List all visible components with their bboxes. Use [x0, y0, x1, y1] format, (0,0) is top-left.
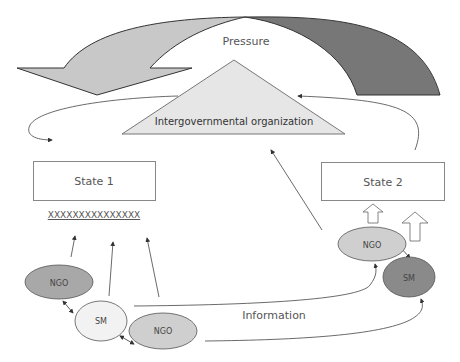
ngo-bottom-up-arrow: [147, 238, 159, 297]
ngo-sm-left-link: [63, 301, 73, 313]
sm-left-up-arrow: [109, 242, 113, 296]
information-arrow-lower: [205, 299, 422, 341]
state1-label: State 1: [74, 175, 114, 188]
pressure-label: Pressure: [223, 35, 270, 48]
ngo-bottom-label: NGO: [154, 327, 172, 336]
sm-right-label: SM: [403, 274, 415, 283]
information-arrow-upper: [134, 264, 376, 306]
ngo-right-label: NGO: [363, 241, 381, 250]
hollow-up-arrow-large: [402, 212, 428, 241]
igo-label: Intergovernmental organization: [155, 116, 314, 127]
information-label: Information: [242, 309, 306, 322]
hollow-up-arrow-small: [363, 204, 383, 223]
state2-label: State 2: [363, 176, 403, 189]
sm-left-label: SM: [95, 317, 107, 326]
xxx-label: XXXXXXXXXXXXXXX: [48, 210, 140, 220]
pressure-arrow-dark: [245, 17, 440, 95]
ngo-left-up-arrow: [71, 236, 75, 257]
ngo-left-label: NGO: [50, 279, 68, 288]
ngo-to-igo-arrow: [271, 150, 322, 230]
